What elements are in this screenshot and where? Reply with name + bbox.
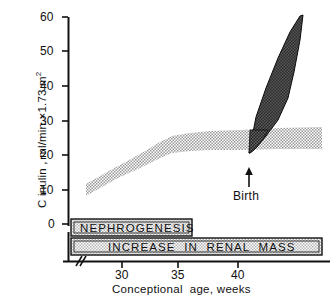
nephrogenesis-bar-label: NEPHROGENESIS: [80, 223, 195, 235]
y-axis-title-mult: ×: [36, 112, 48, 119]
x-axis-title: Conceptional age, weeks: [112, 284, 251, 296]
y-axis-title-unit: 1.73 m: [36, 76, 48, 112]
y-tick-label-0: 0: [48, 218, 55, 230]
y-axis-title-main: C inulin , ml/min.: [36, 119, 48, 208]
renal-mass-bar-label: INCREASE IN RENAL MASS: [108, 242, 295, 254]
x-tick-label-30: 30: [115, 269, 129, 281]
x-tick-label-40: 40: [231, 269, 245, 281]
y-tick-marks: [62, 17, 68, 224]
birth-arrow-icon: [245, 167, 253, 187]
y-axis-title-exponent: 2: [34, 71, 43, 76]
gfr-conceptional-age-figure: 60 50 40 30 20 10 0 30 35 40 Conceptiona…: [0, 0, 332, 301]
y-axis-title: C inulin , ml/min.×1.73 m2: [34, 18, 52, 208]
birth-label: Birth: [233, 190, 259, 202]
light-gfr-band: [86, 127, 322, 196]
x-tick-label-35: 35: [171, 269, 185, 281]
y-axis-title-text: C inulin , ml/min.×1.73 m2: [34, 71, 48, 208]
